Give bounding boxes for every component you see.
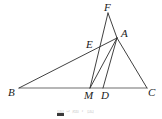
segment-AD [103, 38, 117, 88]
vertex-label-C: C [148, 87, 155, 98]
vertex-label-B: B [8, 87, 15, 98]
segment-AM [90, 38, 117, 88]
caption-swatch [57, 113, 64, 116]
vertex-label-D: D [101, 90, 109, 101]
vertex-label-A: A [121, 28, 128, 39]
figure-canvas: F A E B M D C 图 3 题 7 图 [0, 0, 162, 119]
figure-caption: 图 3 题 7 图 [57, 110, 105, 117]
segment-BA [19, 38, 117, 88]
caption-label: 图 3 题 7 图 [57, 110, 94, 113]
vertex-label-E: E [86, 39, 93, 50]
geometry-diagram [0, 0, 162, 119]
vertex-label-M: M [84, 90, 93, 101]
vertex-label-F: F [104, 2, 111, 13]
segment-AC [117, 38, 147, 88]
segment-FA [108, 13, 117, 38]
